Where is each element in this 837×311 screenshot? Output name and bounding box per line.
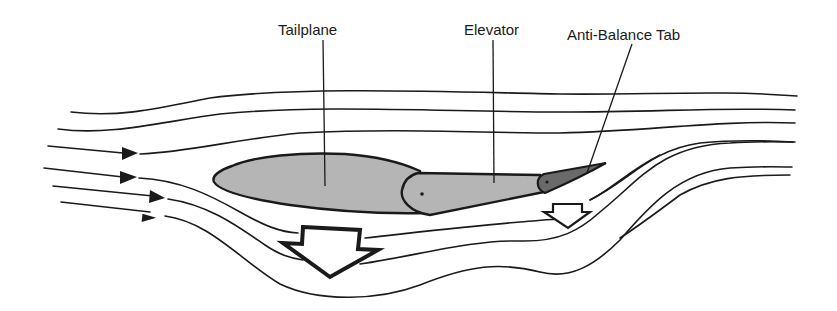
- anti-balance-tab-label: Anti-Balance Tab: [567, 27, 680, 42]
- streamlines-inlet: [44, 146, 153, 212]
- streamline-2: [58, 109, 795, 131]
- anti-balance-tab-shape: [538, 163, 606, 193]
- diagram-canvas: Tailplane Elevator Anti-Balance Tab: [0, 0, 837, 311]
- streamline-7-in: [61, 202, 150, 212]
- streamline-5-in: [44, 168, 123, 177]
- streamlines-upper: [58, 91, 797, 154]
- tailplane-shape: [213, 154, 428, 214]
- elevator-leader-line: [493, 40, 494, 183]
- streamline-4-in: [48, 146, 123, 153]
- streamline-4-b: [365, 219, 560, 238]
- tab-leader-line: [587, 44, 632, 173]
- elevator-label: Elevator: [464, 22, 519, 37]
- tailplane-label: Tailplane: [278, 22, 337, 37]
- flow-arrow-icon: [120, 171, 137, 184]
- flow-arrow-icon: [141, 212, 157, 222]
- flow-arrow-icon: [122, 147, 138, 160]
- elevator-hinge-icon: [420, 192, 424, 196]
- streamline-9: [620, 175, 790, 238]
- streamline-3: [140, 122, 795, 154]
- down-force-arrow-large-icon: [283, 227, 378, 277]
- diagram-svg: [0, 0, 837, 311]
- tab-hinge-icon: [545, 180, 548, 183]
- streamline-6-in: [53, 186, 153, 196]
- flow-arrow-icon: [149, 190, 165, 203]
